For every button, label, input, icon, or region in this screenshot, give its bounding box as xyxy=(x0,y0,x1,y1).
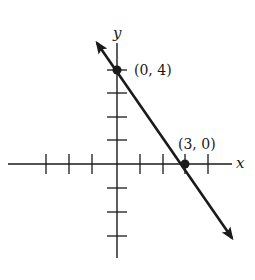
y-axis-label: y xyxy=(112,24,122,42)
point-3-0 xyxy=(181,160,190,169)
point-0-4 xyxy=(113,66,122,75)
point-label-3-0: (3, 0) xyxy=(178,136,216,152)
point-label-0-4: (0, 4) xyxy=(134,62,172,78)
x-axis-label: x xyxy=(236,154,245,172)
line-graph: y x (0, 4) (3, 0) xyxy=(0,0,255,280)
